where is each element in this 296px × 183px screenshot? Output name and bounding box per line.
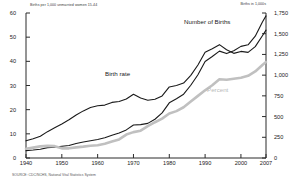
- series-label-number-of-births: Number of Births: [184, 18, 230, 25]
- series-label-birth-rate: Birth rate: [105, 70, 130, 77]
- plot-area: [0, 0, 296, 183]
- series-label-percent: Percent: [207, 86, 228, 93]
- chart-root: Births per 1,000 unmarried women 15-44 B…: [0, 0, 296, 183]
- source-note: SOURCE: CDC/NCHS, National Vital Statist…: [12, 173, 96, 177]
